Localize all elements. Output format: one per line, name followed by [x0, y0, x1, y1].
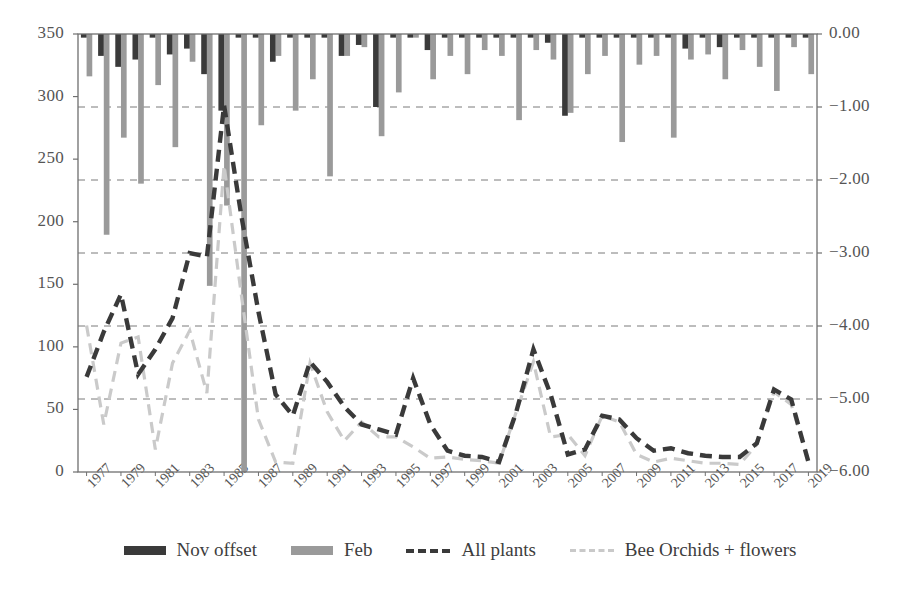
bar-feb — [533, 34, 539, 50]
legend-item[interactable]: Nov offset — [124, 539, 257, 561]
bar-feb — [190, 34, 196, 62]
bar-feb — [379, 34, 385, 136]
bar-feb — [327, 34, 333, 176]
bar-feb — [362, 34, 368, 47]
bar-feb — [551, 34, 557, 60]
legend-label: All plants — [461, 539, 535, 561]
series-bee-orchids-flowers — [87, 165, 809, 464]
bar-feb — [602, 34, 608, 56]
legend-label: Bee Orchids + flowers — [625, 539, 797, 561]
bar-nov-offset — [373, 34, 379, 107]
bar-nov-offset — [167, 34, 173, 54]
bar-nov-offset — [425, 34, 431, 50]
bar-nov-offset — [356, 34, 362, 45]
bar-nov-offset — [270, 34, 276, 62]
bar-nov-offset — [339, 34, 345, 56]
bar-feb — [87, 34, 93, 76]
bar-feb — [465, 34, 471, 74]
bar-nov-offset — [562, 34, 568, 116]
legend-swatch-all-plants — [406, 549, 450, 553]
bar-nov-offset — [218, 34, 224, 111]
bar-feb — [568, 34, 574, 113]
bar-feb — [619, 34, 625, 142]
bar-nov-offset — [682, 34, 688, 49]
series-all-plants — [87, 105, 809, 462]
legend-item[interactable]: Feb — [291, 539, 373, 561]
bar-nov-offset — [201, 34, 207, 74]
line-all-plants — [87, 105, 809, 462]
bar-feb — [585, 34, 591, 74]
bar-feb — [155, 34, 161, 85]
bar-nov-offset — [545, 34, 551, 43]
bar-feb — [705, 34, 711, 54]
plot-area — [0, 0, 920, 589]
bar-feb — [241, 34, 247, 472]
legend-item[interactable]: Bee Orchids + flowers — [570, 539, 797, 561]
bar-feb — [482, 34, 488, 50]
bar-feb — [688, 34, 694, 60]
bar-feb — [654, 34, 660, 56]
bar-feb — [637, 34, 643, 65]
bar-nov-offset — [184, 34, 190, 49]
legend-swatch-feb — [291, 546, 333, 555]
legend-item[interactable]: All plants — [406, 539, 535, 561]
bar-feb — [276, 34, 282, 56]
bar-feb — [310, 34, 316, 79]
bar-feb — [757, 34, 763, 67]
bar-feb — [396, 34, 402, 92]
chart-legend: Nov offsetFebAll plantsBee Orchids + flo… — [0, 530, 920, 570]
bar-feb — [740, 34, 746, 50]
bar-feb — [430, 34, 436, 79]
legend-swatch-bee-orchids — [570, 549, 614, 552]
bar-feb — [138, 34, 144, 184]
bar-feb — [448, 34, 454, 56]
legend-label: Nov offset — [177, 539, 257, 561]
bar-nov-offset — [132, 34, 138, 60]
plot-frame — [73, 34, 822, 476]
bar-feb — [173, 34, 179, 147]
bar-nov-offset — [115, 34, 121, 67]
bar-feb — [499, 34, 505, 56]
legend-swatch-nov-offset — [124, 546, 166, 555]
bar-feb — [774, 34, 780, 91]
line-bee-orchids-flowers — [87, 165, 809, 464]
bar-nov-offset — [717, 34, 723, 47]
bar-feb — [344, 34, 350, 56]
bar-feb — [516, 34, 522, 120]
bar-feb — [791, 34, 797, 47]
bar-feb — [671, 34, 677, 138]
bar-feb — [121, 34, 127, 138]
bar-feb — [293, 34, 299, 111]
bar-feb — [104, 34, 110, 235]
bar-feb — [808, 34, 814, 74]
bar-nov-offset — [98, 34, 104, 56]
chart-root: 050100150200250300350 0.00−1.00−2.00−3.0… — [0, 0, 920, 589]
legend-label: Feb — [344, 539, 373, 561]
bar-feb — [258, 34, 264, 125]
bar-feb — [722, 34, 728, 79]
